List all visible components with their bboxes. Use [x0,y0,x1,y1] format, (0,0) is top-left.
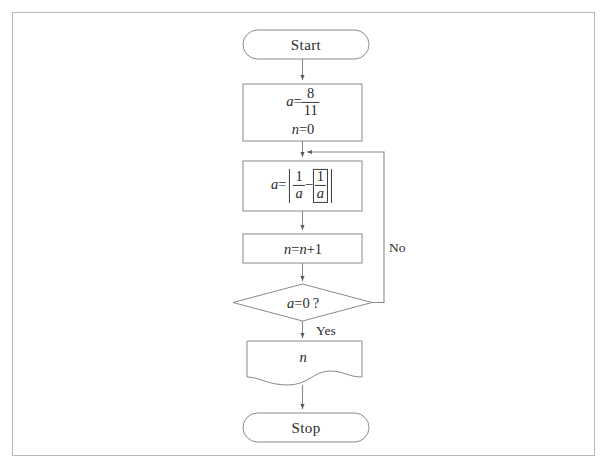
init-equals: = [294,93,302,109]
node-start-label: Start [291,37,321,54]
compute-equals: = [278,176,286,192]
compute-denominator-2: a [315,184,326,201]
compute-minus: − [305,176,313,192]
node-compute-equation: a= 1 a − 1 a [271,169,335,203]
init-numerator: 8 [302,86,320,101]
node-init-equation-2: n=0 [292,121,315,138]
increment-plus: + [307,241,315,257]
edge-yes-label: Yes [316,323,336,339]
compute-denominator-1: a [293,184,304,201]
init-denominator: 11 [302,101,320,118]
compute-numerator-2: 1 [315,169,326,184]
node-stop-label: Stop [291,420,320,437]
node-output-label: n [299,349,306,366]
absolute-value-bar-left [289,169,290,203]
node-decision-condition: a=0? [287,295,319,312]
decision-value: 0 [302,295,309,311]
decision-question-mark: ? [313,295,319,311]
edge-no-label: No [389,240,406,256]
flowchart-canvas: Start a= 8 11 n=0 a= 1 a − 1 a n=n+1 a=0… [0,0,607,470]
node-increment-equation: n=n+1 [284,241,322,258]
flowchart-graphics [0,0,607,470]
init-counter-value: 0 [307,121,314,137]
increment-rhs-value: 1 [315,241,322,257]
floor-bracket: 1 a [313,169,328,203]
increment-rhs-variable: n [299,241,306,257]
compute-numerator-1: 1 [293,169,304,184]
absolute-value-bar-right [331,169,332,203]
node-init-equation-1: a= 8 11 [286,87,319,119]
